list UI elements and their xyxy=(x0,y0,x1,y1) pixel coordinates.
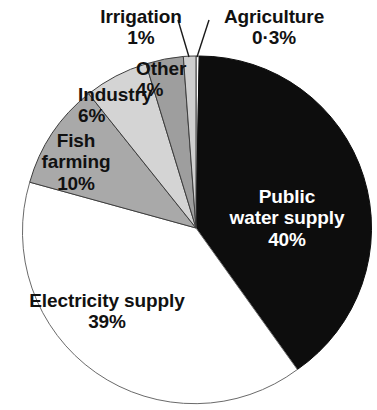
slice-label-irrigation: Irrigation 1% xyxy=(86,6,196,49)
slice-label-agriculture: Agriculture 0·3% xyxy=(206,6,342,49)
pie-chart-figure: Irrigation 1% Agriculture 0·3% Other 4% … xyxy=(0,0,377,410)
slice-label-fish-farming: Fish farming 10% xyxy=(30,130,122,194)
slice-label-electricity-supply: Electricity supply 39% xyxy=(22,290,192,333)
slice-label-public-water-supply: Public water supply 40% xyxy=(218,186,356,250)
slice-label-industry: Industry 6% xyxy=(78,84,170,127)
